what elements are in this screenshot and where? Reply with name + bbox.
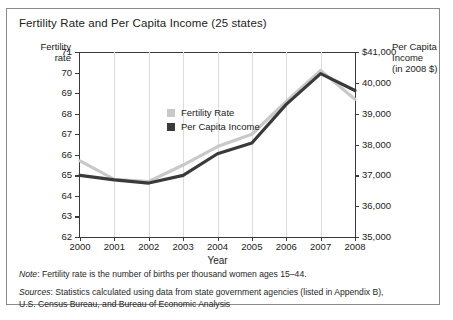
- right-tick-36000: [355, 206, 359, 207]
- chart-card: Fertility Rate and Per Capita Income (25…: [6, 8, 440, 305]
- left-tick-62: [75, 237, 79, 238]
- right-tick-38000: [355, 145, 359, 146]
- legend-label-per-capita-income: Per Capita Income: [181, 121, 260, 132]
- left-tick-63: [75, 216, 79, 217]
- legend-item-per-capita-income: Per Capita Income: [167, 121, 260, 132]
- left-tick-label-66: 66: [20, 149, 72, 160]
- legend-swatch-fertility-rate: [167, 109, 175, 117]
- left-tick-70: [75, 73, 79, 74]
- right-tick-label-36000: 36,000: [362, 200, 391, 211]
- legend-item-fertility-rate: Fertility Rate: [167, 107, 260, 118]
- x-axis-title: Year: [80, 255, 355, 266]
- left-tick-label-69: 69: [20, 87, 72, 98]
- legend-label-fertility-rate: Fertility Rate: [181, 107, 234, 118]
- chart-legend: Fertility Rate Per Capita Income: [167, 107, 260, 135]
- right-tick-label-38000: 38,000: [362, 139, 391, 150]
- right-axis-title-line1: Per Capita: [392, 41, 453, 52]
- left-tick-label-63: 63: [20, 210, 72, 221]
- right-axis-title: Per Capita Income (in 2008 $): [392, 41, 453, 74]
- right-tick-41000: [355, 52, 359, 53]
- series-lines: [80, 52, 355, 237]
- sources-text-2: U.S. Census Bureau, and Bureau of Econom…: [19, 299, 383, 311]
- left-tick-label-67: 67: [20, 128, 72, 139]
- sources-text-1: : Statistics calculated using data from …: [51, 287, 384, 297]
- right-tick-37000: [355, 175, 359, 176]
- left-tick-71: [75, 52, 79, 53]
- note-label: Note: [19, 269, 37, 279]
- left-tick-label-64: 64: [20, 190, 72, 201]
- right-axis-title-line3: (in 2008 $): [392, 63, 453, 74]
- right-tick-label-39000: 39,000: [362, 108, 391, 119]
- plot-area: 62636465666768697071 35,00036,00037,0003…: [80, 52, 355, 237]
- left-tick-67: [75, 134, 79, 135]
- left-tick-65: [75, 175, 79, 176]
- left-tick-label-68: 68: [20, 108, 72, 119]
- left-tick-label-71: 71: [20, 46, 72, 57]
- right-tick-label-37000: 37,000: [362, 169, 391, 180]
- legend-swatch-per-capita-income: [167, 123, 175, 131]
- left-tick-69: [75, 93, 79, 94]
- sources-label: Sources: [19, 287, 51, 297]
- left-tick-68: [75, 114, 79, 115]
- left-tick-label-65: 65: [20, 169, 72, 180]
- right-tick-39000: [355, 114, 359, 115]
- chart-title: Fertility Rate and Per Capita Income (25…: [19, 17, 267, 29]
- left-tick-label-70: 70: [20, 67, 72, 78]
- note-text: : Fertility rate is the number of births…: [37, 269, 306, 279]
- right-tick-label-41000: $41,000: [362, 46, 396, 57]
- note-line: Note: Fertility rate is the number of bi…: [19, 269, 307, 281]
- x-tick-label-2008: 2008: [335, 241, 375, 252]
- left-tick-66: [75, 155, 79, 156]
- sources-line: Sources: Statistics calculated using dat…: [19, 287, 383, 310]
- right-tick-40000: [355, 83, 359, 84]
- right-axis-title-line2: Income: [392, 52, 453, 63]
- left-tick-64: [75, 196, 79, 197]
- right-tick-label-40000: 40,000: [362, 77, 391, 88]
